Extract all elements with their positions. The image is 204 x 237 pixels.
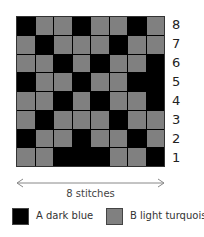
row-label: 4 xyxy=(172,94,180,107)
stitch-cell xyxy=(91,55,109,73)
stitch-cell xyxy=(147,111,165,129)
stitch-cell xyxy=(91,148,109,166)
stitch-cell xyxy=(110,36,128,54)
width-arrow-icon xyxy=(16,178,165,188)
stitch-cell xyxy=(17,111,35,129)
row-label: 8 xyxy=(172,18,180,31)
stitch-cell xyxy=(73,111,91,129)
stitch-cell xyxy=(91,130,109,148)
stitch-cell xyxy=(128,17,146,35)
stitch-cell xyxy=(128,111,146,129)
row-label: 2 xyxy=(172,132,180,145)
stitch-cell xyxy=(17,55,35,73)
stitch-cell xyxy=(54,55,72,73)
stitch-cell xyxy=(36,36,54,54)
stitch-cell xyxy=(73,36,91,54)
stitch-cell xyxy=(73,130,91,148)
stitch-cell xyxy=(54,92,72,110)
legend-label-b: B light turquoise xyxy=(130,210,204,221)
stitch-cell xyxy=(17,148,35,166)
stitch-cell xyxy=(73,148,91,166)
stitch-cell xyxy=(110,55,128,73)
stitch-cell xyxy=(110,92,128,110)
stitch-cell xyxy=(36,17,54,35)
legend-swatch-a xyxy=(12,208,29,225)
stitch-chart-grid xyxy=(16,16,165,167)
stitch-cell xyxy=(54,130,72,148)
stitch-cell xyxy=(54,111,72,129)
stitch-cell xyxy=(36,92,54,110)
stitch-cell xyxy=(91,17,109,35)
stitch-cell xyxy=(147,92,165,110)
stitch-cell xyxy=(91,36,109,54)
row-label: 7 xyxy=(172,37,180,50)
stitch-cell xyxy=(128,92,146,110)
stitch-cell xyxy=(17,17,35,35)
stitch-cell xyxy=(91,92,109,110)
stitch-cell xyxy=(54,148,72,166)
stitch-cell xyxy=(110,111,128,129)
stitch-cell xyxy=(147,73,165,91)
stitch-cell xyxy=(54,36,72,54)
stitch-cell xyxy=(128,148,146,166)
stitch-cell xyxy=(17,130,35,148)
stitch-cell xyxy=(91,111,109,129)
stitch-cell xyxy=(147,17,165,35)
stitch-cell xyxy=(128,36,146,54)
row-label: 5 xyxy=(172,75,180,88)
stitch-cell xyxy=(36,130,54,148)
stitch-cell xyxy=(17,92,35,110)
stitch-cell xyxy=(73,17,91,35)
stitch-cell xyxy=(73,92,91,110)
stitch-cell xyxy=(147,36,165,54)
stitch-cell xyxy=(73,73,91,91)
stitch-cell xyxy=(128,130,146,148)
stitch-cell xyxy=(110,148,128,166)
row-label: 6 xyxy=(172,56,180,69)
stitch-cell xyxy=(36,73,54,91)
stitch-cell xyxy=(36,55,54,73)
legend-label-a: A dark blue xyxy=(36,210,93,221)
row-label: 1 xyxy=(172,151,180,164)
stitch-cell xyxy=(110,130,128,148)
stitch-cell xyxy=(36,111,54,129)
stitch-cell xyxy=(73,55,91,73)
stitch-cell xyxy=(147,148,165,166)
stitch-cell xyxy=(17,36,35,54)
stitch-cell xyxy=(110,73,128,91)
stitch-cell xyxy=(54,73,72,91)
row-label: 3 xyxy=(172,113,180,126)
width-label: 8 stitches xyxy=(0,188,181,199)
stitch-cell xyxy=(128,55,146,73)
stitch-cell xyxy=(54,17,72,35)
stitch-cell xyxy=(36,148,54,166)
legend-swatch-b xyxy=(106,208,123,225)
stitch-cell xyxy=(147,55,165,73)
stitch-cell xyxy=(17,73,35,91)
stitch-cell xyxy=(128,73,146,91)
stitch-cell xyxy=(147,130,165,148)
stitch-cell xyxy=(91,73,109,91)
stitch-cell xyxy=(110,17,128,35)
